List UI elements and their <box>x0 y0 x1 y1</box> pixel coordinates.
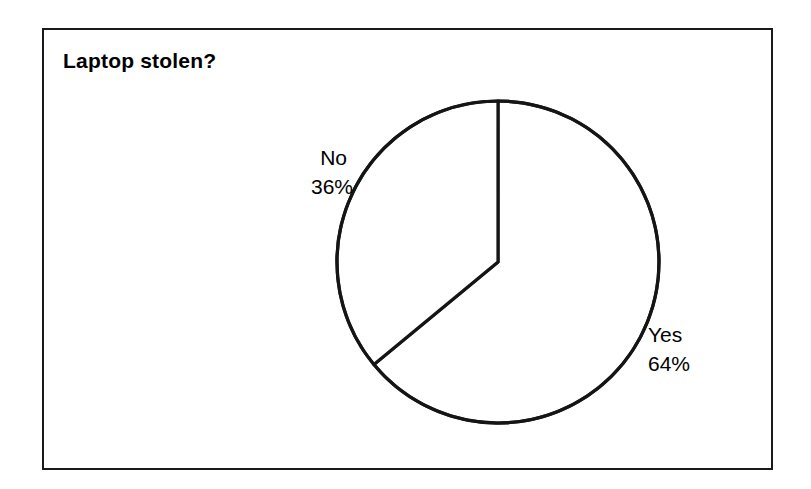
figure-frame <box>42 28 773 470</box>
chart-title: Laptop stolen? <box>63 48 216 74</box>
pie-label-yes: Yes 64% <box>648 320 708 378</box>
pie-label-no-percent: 36% <box>297 172 353 201</box>
pie-label-yes-percent: 64% <box>648 349 708 378</box>
pie-label-no-name: No <box>297 143 353 172</box>
pie-label-yes-name: Yes <box>648 320 708 349</box>
pie-label-no: No 36% <box>297 143 353 201</box>
